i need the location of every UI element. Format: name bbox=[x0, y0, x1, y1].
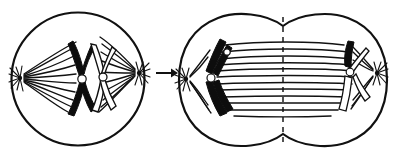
mitosis-diagram-figure: Mitosis stages: metaphase to telophase /… bbox=[0, 0, 397, 161]
centromere bbox=[207, 74, 215, 82]
transition-arrow bbox=[156, 69, 178, 78]
centromere bbox=[99, 73, 107, 81]
panel-left-metaphase-cell bbox=[9, 13, 150, 146]
panel-right-telophase-cell bbox=[175, 14, 388, 146]
centromere-upper bbox=[224, 49, 230, 55]
centromere bbox=[78, 75, 86, 83]
diagram-canvas bbox=[0, 0, 397, 161]
centromere bbox=[346, 68, 354, 76]
